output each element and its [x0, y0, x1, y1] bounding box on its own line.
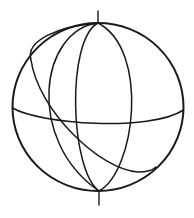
sphere-diagram	[0, 0, 194, 218]
central-meridian	[76, 23, 132, 191]
outer-circle	[13, 23, 184, 191]
equator	[13, 108, 184, 123]
left-meridian	[49, 23, 99, 191]
sphere-svg	[0, 0, 194, 218]
